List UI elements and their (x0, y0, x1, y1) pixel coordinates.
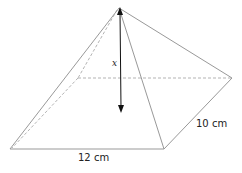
height-label: x (112, 58, 117, 68)
pyramid-diagram (0, 0, 242, 173)
height-arrow (117, 7, 124, 113)
base-width-label: 10 cm (196, 118, 227, 129)
base-length-label: 12 cm (78, 152, 109, 163)
